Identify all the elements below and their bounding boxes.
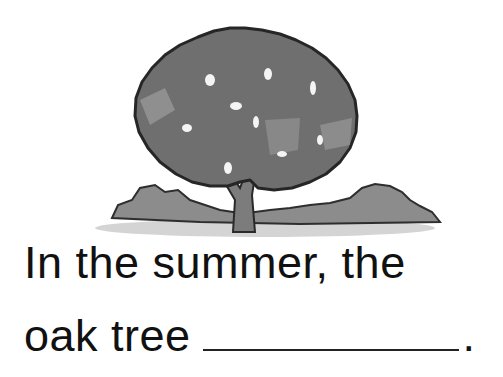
sentence-line-1: In the summer, the bbox=[24, 240, 406, 285]
sentence-line-2-text: oak tree bbox=[24, 310, 191, 361]
answer-blank[interactable] bbox=[203, 347, 459, 351]
sentence-line-2: oak tree. bbox=[24, 313, 476, 358]
sentence-period: . bbox=[463, 310, 476, 361]
oak-tree-icon bbox=[0, 0, 503, 245]
canopy-highlight bbox=[265, 118, 300, 155]
